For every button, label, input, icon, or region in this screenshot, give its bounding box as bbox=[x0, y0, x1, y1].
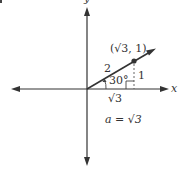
equation-label: a = √3 bbox=[105, 114, 142, 125]
y-axis-up-arrow-icon bbox=[84, 7, 90, 16]
y-axis-label: y bbox=[84, 0, 90, 4]
hypotenuse-label: 2 bbox=[104, 63, 111, 74]
opposite-label: 1 bbox=[138, 70, 145, 81]
y-axis-down-arrow-icon bbox=[84, 157, 90, 166]
x-axis-left-arrow-icon bbox=[11, 86, 20, 92]
corner-mark bbox=[0, 0, 2, 3]
ray-arrow-icon bbox=[146, 49, 156, 56]
x-axis-label: x bbox=[171, 83, 177, 94]
x-axis-right-arrow-icon bbox=[160, 86, 169, 92]
point-marker bbox=[131, 58, 136, 63]
point-label: (√3, 1) bbox=[110, 43, 147, 54]
angle-label: 30° bbox=[109, 75, 129, 86]
unit-triangle-diagram: y x (√3, 1) 2 1 30° √3 a = √3 bbox=[0, 0, 179, 169]
diagram-canvas bbox=[0, 0, 179, 169]
adjacent-label: √3 bbox=[108, 93, 122, 104]
y-axis bbox=[84, 7, 90, 166]
